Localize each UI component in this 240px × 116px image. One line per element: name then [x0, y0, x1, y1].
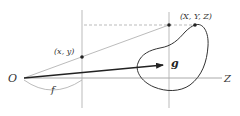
- image-point-label: (x, y): [54, 47, 74, 56]
- image-point-dot: [80, 55, 84, 59]
- projection-diagram: O (x, y) (X, Y, Z) Z f g: [0, 0, 240, 116]
- world-projection-dot: [167, 23, 171, 27]
- world-point-dot: [193, 23, 197, 27]
- projection-ray: [24, 25, 169, 78]
- gaze-vector-label: g: [171, 57, 179, 70]
- gaze-vector-arrow: [24, 65, 163, 78]
- z-axis-label: Z: [223, 73, 232, 84]
- world-point-label: (X, Y, Z): [180, 12, 212, 21]
- origin-label: O: [8, 72, 17, 85]
